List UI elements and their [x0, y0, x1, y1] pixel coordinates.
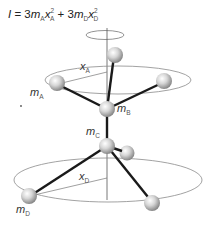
molecule-diagram	[0, 0, 214, 229]
label-mD: mD	[16, 203, 30, 215]
atom-right	[156, 73, 172, 89]
label-mB: mB	[117, 102, 131, 114]
atom-lower-right	[144, 195, 160, 211]
bond-left	[57, 84, 107, 109]
stray-dot	[20, 105, 22, 107]
bond-top	[107, 56, 114, 109]
formula-subD2: D	[94, 15, 99, 22]
label-xD: xD	[79, 170, 89, 182]
lower-ring	[14, 158, 202, 202]
label-mC: mC	[86, 125, 100, 137]
formula-sup: 2	[50, 7, 54, 14]
label-mA: mA	[30, 86, 44, 98]
bond-right	[107, 82, 164, 109]
xA-radius	[62, 72, 107, 83]
rotation-indicator	[86, 31, 124, 40]
formula-plus: + 3	[54, 8, 74, 20]
atom-mD	[21, 188, 37, 204]
atom-back	[120, 146, 135, 161]
bond-mD	[30, 146, 107, 196]
label-xA: xA	[80, 60, 90, 72]
moment-of-inertia-formula: I = 3mAx2A + 3mDx2D	[8, 8, 98, 20]
formula-subD: D	[83, 15, 88, 22]
atom-top	[107, 47, 123, 63]
formula-eq: = 3	[11, 8, 31, 20]
formula-sup2: 2	[94, 7, 98, 14]
xD-radius	[30, 178, 107, 196]
atom-mB	[99, 101, 115, 117]
atom-mC	[99, 138, 115, 154]
formula-m: m	[31, 8, 41, 20]
atom-mA	[49, 75, 65, 91]
formula-subA2: A	[50, 15, 54, 22]
formula-subA: A	[40, 15, 44, 22]
